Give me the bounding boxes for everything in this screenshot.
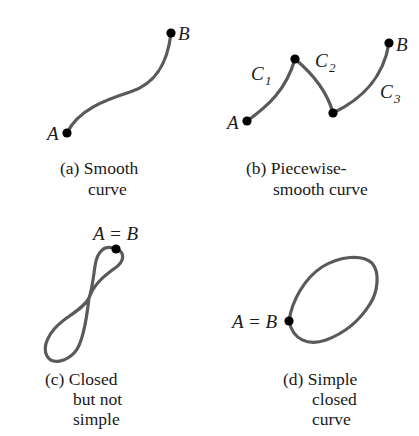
caption-b-line2: smooth curve: [273, 179, 368, 199]
panel-d-simple-closed-curve: A = B (d) Simple closed curve: [230, 257, 377, 429]
caption-c-line1: (c) Closed: [45, 369, 118, 389]
label-a-equals-b: A = B: [230, 311, 278, 332]
caption-d-line1: (d) Simple: [283, 369, 358, 389]
caption-b-line1: (b) Piecewise-: [246, 158, 347, 178]
caption-d-line3: curve: [312, 409, 351, 429]
junction-point-1: [290, 54, 299, 63]
svg-text:C: C: [380, 81, 393, 102]
caption-d-line2: closed: [312, 389, 357, 409]
panel-b-piecewise-smooth-curve: A B C 1 C 2 C 3 (b) Piecewise- smooth cu…: [225, 34, 408, 199]
svg-text:C: C: [251, 63, 264, 84]
segment-c3: [333, 43, 389, 113]
label-b: B: [396, 34, 408, 55]
svg-text:3: 3: [393, 91, 401, 106]
point-a-equals-b: [284, 316, 293, 325]
point-a-equals-b: [111, 244, 120, 253]
label-a: A: [225, 112, 239, 133]
label-b: B: [178, 23, 190, 44]
svg-text:C: C: [315, 50, 328, 71]
point-a: [62, 128, 71, 137]
caption-c-line2: but not: [73, 389, 122, 409]
simple-closed-curve: [289, 257, 377, 342]
curve-types-figure: A B (a) Smooth curve A B C 1 C 2 C 3 (b)…: [0, 0, 419, 436]
label-a: A: [45, 123, 59, 144]
caption-a-line2: curve: [88, 179, 127, 199]
figure-eight-curve: [45, 248, 122, 362]
label-c3: C 3: [380, 81, 401, 106]
junction-point-2: [328, 108, 337, 117]
label-c2: C 2: [315, 50, 336, 75]
smooth-curve: [67, 33, 171, 133]
panel-c-closed-not-simple: A = B (c) Closed but not simple: [45, 223, 139, 429]
svg-text:1: 1: [265, 73, 272, 88]
svg-text:2: 2: [329, 60, 336, 75]
point-a: [242, 116, 251, 125]
point-b: [166, 28, 175, 37]
label-a-equals-b: A = B: [91, 223, 139, 244]
panel-a-smooth-curve: A B (a) Smooth curve: [45, 23, 190, 199]
caption-a-line1: (a) Smooth: [60, 158, 139, 178]
caption-c-line3: simple: [73, 409, 120, 429]
label-c1: C 1: [251, 63, 272, 88]
point-b: [384, 38, 393, 47]
